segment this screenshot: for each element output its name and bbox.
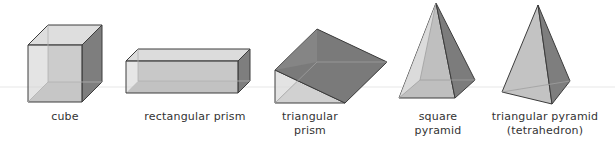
label-rectangular-prism: rectangular prism bbox=[125, 110, 265, 124]
label-rectangular-prism-text: rectangular prism bbox=[144, 110, 245, 123]
label-square-pyramid: square pyramid bbox=[398, 110, 478, 138]
label-triangular-pyramid: triangular pyramid (tetrahedron) bbox=[480, 110, 610, 138]
cube-figure bbox=[28, 25, 102, 102]
triangular-pyramid-figure bbox=[502, 5, 570, 104]
label-triangular-prism: triangular prism bbox=[270, 110, 350, 138]
triangular-prism-figure bbox=[275, 29, 387, 103]
label-square-pyramid-line1: square bbox=[398, 110, 478, 124]
rectangular-prism-figure bbox=[126, 49, 250, 93]
rect-prism-top-face bbox=[126, 49, 250, 61]
label-triangular-pyramid-line1: triangular pyramid bbox=[480, 110, 610, 124]
square-pyramid-figure bbox=[399, 3, 475, 98]
label-cube-text: cube bbox=[51, 110, 79, 123]
label-triangular-prism-line1: triangular bbox=[270, 110, 350, 124]
label-triangular-prism-line2: prism bbox=[270, 124, 350, 138]
label-triangular-pyramid-line2: (tetrahedron) bbox=[480, 124, 610, 138]
label-square-pyramid-line2: pyramid bbox=[398, 124, 478, 138]
rect-prism-front-face bbox=[126, 61, 238, 93]
label-cube: cube bbox=[30, 110, 100, 124]
